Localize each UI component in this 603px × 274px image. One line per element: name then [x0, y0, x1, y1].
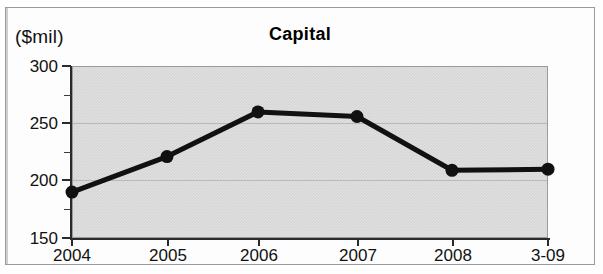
y-tick-300 [62, 65, 71, 67]
chart-title: Capital [180, 24, 420, 45]
x-tick-2007 [357, 238, 359, 246]
chart-page: ($mil) Capital 300 250 200 150 2004 2005… [0, 0, 603, 274]
x-tick-3-09 [547, 238, 549, 246]
x-tick-label-3-09: 3-09 [513, 246, 583, 266]
plot-area [72, 66, 548, 238]
y-tick-175 [64, 209, 71, 210]
y-tick-label-300: 300 [10, 57, 58, 77]
x-tick-label-2006: 2006 [224, 246, 294, 266]
y-tick-150 [62, 237, 71, 239]
x-tick-label-2005: 2005 [133, 246, 203, 266]
x-tick-2004 [71, 238, 73, 246]
plot-texture [73, 67, 547, 237]
y-tick-label-200: 200 [10, 171, 58, 191]
y-tick-225 [64, 152, 71, 153]
x-tick-label-2008: 2008 [418, 246, 488, 266]
x-tick-2005 [167, 238, 169, 246]
x-tick-label-2004: 2004 [37, 246, 107, 266]
gridline-250 [73, 123, 547, 124]
y-tick-label-250: 250 [10, 114, 58, 134]
x-axis-line [70, 238, 550, 240]
y-axis-unit-label: ($mil) [15, 26, 64, 48]
x-tick-2006 [258, 238, 260, 246]
x-tick-2008 [452, 238, 454, 246]
y-tick-200 [62, 179, 71, 181]
x-tick-label-2007: 2007 [323, 246, 393, 266]
y-tick-275 [64, 95, 71, 96]
y-tick-250 [62, 122, 71, 124]
gridline-200 [73, 180, 547, 181]
